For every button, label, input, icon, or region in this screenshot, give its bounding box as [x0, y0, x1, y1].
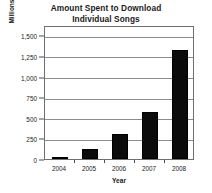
- x-axis-ticks: [44, 160, 194, 164]
- chart-title-line-2: Individual Songs: [0, 14, 212, 25]
- y-tick-label: 750: [26, 95, 37, 102]
- y-axis-ticks: 02505007501,0001,2501,500: [0, 26, 44, 160]
- bar: [82, 149, 99, 159]
- y-tick-label: 500: [26, 115, 37, 122]
- x-tick-label: 2005: [82, 165, 96, 173]
- x-tick-mark: [134, 160, 135, 163]
- y-tick-label: 1,000: [21, 74, 37, 81]
- x-axis-tick-labels: 20042005200620072008: [44, 165, 194, 175]
- y-tick-label: 1,250: [21, 53, 37, 60]
- x-axis-title: Year: [44, 177, 194, 185]
- bar: [112, 134, 129, 159]
- x-tick-label: 2007: [142, 165, 156, 173]
- x-tick-label: 2008: [172, 165, 186, 173]
- y-tick-label: 0: [33, 157, 37, 164]
- bar: [142, 112, 159, 159]
- chart-title: Amount Spent to Download Individual Song…: [0, 3, 212, 24]
- x-tick-mark: [104, 160, 105, 163]
- x-tick-label: 2006: [112, 165, 126, 173]
- bar-chart-figure: Amount Spent to Download Individual Song…: [0, 0, 212, 193]
- y-tick-label: 250: [26, 136, 37, 143]
- bar: [52, 157, 69, 159]
- plot-area: [44, 26, 194, 160]
- x-tick-label: 2004: [52, 165, 66, 173]
- y-tick-label: 1,500: [21, 33, 37, 40]
- bars-layer: [45, 27, 193, 159]
- chart-title-line-1: Amount Spent to Download: [0, 3, 212, 14]
- x-tick-mark: [164, 160, 165, 163]
- x-tick-mark: [74, 160, 75, 163]
- bar: [172, 50, 189, 159]
